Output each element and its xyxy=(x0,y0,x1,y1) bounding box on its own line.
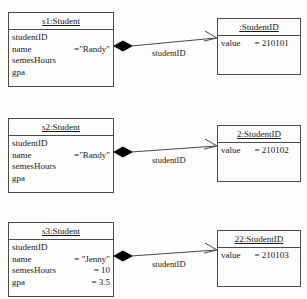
attribute-name: name xyxy=(12,44,32,56)
attribute-name: name xyxy=(12,150,32,162)
attribute-name: gpa xyxy=(12,277,25,289)
attribute-name: value xyxy=(221,250,241,262)
attribute-row: studentID xyxy=(9,138,113,150)
attribute-row: semesHours xyxy=(9,161,113,173)
object-box-student-3[interactable]: s3:Student studentID name = "Jenny" seme… xyxy=(8,222,114,297)
attribute-value xyxy=(104,138,110,150)
object-box-studentid-2[interactable]: 2:StudentID value = 210102 xyxy=(217,125,301,182)
attribute-value xyxy=(104,32,110,44)
attribute-value xyxy=(104,173,110,185)
attribute-row: value = 210102 xyxy=(218,145,300,157)
object-title-student-1: s1:Student xyxy=(9,13,113,30)
attribute-value xyxy=(104,161,110,173)
link-label-3: studentID xyxy=(152,259,186,269)
object-box-studentid-3[interactable]: 22:StudentID value = 210103 xyxy=(217,230,301,287)
attribute-value: = 3.5 xyxy=(85,277,110,289)
filled-diamond-icon-1 xyxy=(114,41,132,51)
attribute-value: = 210103 xyxy=(249,250,289,262)
attribute-name: value xyxy=(221,145,241,157)
object-attributes-student-1: studentID name ="Randy" semesHours gpa xyxy=(9,30,113,86)
open-arrowhead-icon-2 xyxy=(204,139,217,149)
attribute-value xyxy=(104,55,110,67)
object-title-student-2: s2:Student xyxy=(9,119,113,136)
attribute-name: name xyxy=(12,254,32,266)
attribute-row: value = 210103 xyxy=(218,250,300,262)
attribute-value xyxy=(104,242,110,254)
open-arrowhead-icon-1 xyxy=(204,31,217,41)
attribute-name: gpa xyxy=(12,67,25,79)
filled-diamond-icon-3 xyxy=(114,251,132,261)
uml-object-diagram: s1:Student studentID name ="Randy" semes… xyxy=(0,0,307,299)
object-title-studentid-2: 2:StudentID xyxy=(218,126,300,143)
object-title-student-3: s3:Student xyxy=(9,223,113,240)
attribute-value: ="Randy" xyxy=(68,44,110,56)
attribute-value: = 210101 xyxy=(249,38,289,50)
attribute-name: semesHours xyxy=(12,161,56,173)
attribute-name: gpa xyxy=(12,173,25,185)
attribute-value: = 210102 xyxy=(249,145,289,157)
attribute-name: value xyxy=(221,38,241,50)
object-attributes-studentid-1: value = 210101 xyxy=(218,36,300,74)
object-attributes-studentid-3: value = 210103 xyxy=(218,248,300,286)
open-arrowhead-icon-3 xyxy=(204,243,217,253)
attribute-value: = "Jenny" xyxy=(68,254,110,266)
attribute-name: semesHours xyxy=(12,55,56,67)
attribute-value: = 10 xyxy=(88,265,110,277)
attribute-row: name ="Randy" xyxy=(9,150,113,162)
attribute-value xyxy=(104,67,110,79)
link-label-1: studentID xyxy=(152,48,186,58)
object-box-student-2[interactable]: s2:Student studentID name ="Randy" semes… xyxy=(8,118,114,193)
object-box-student-1[interactable]: s1:Student studentID name ="Randy" semes… xyxy=(8,12,114,87)
attribute-row: semesHours = 10 xyxy=(9,265,113,277)
object-title-studentid-1: :StudentID xyxy=(218,19,300,36)
object-attributes-student-2: studentID name ="Randy" semesHours gpa xyxy=(9,136,113,192)
attribute-row: gpa = 3.5 xyxy=(9,277,113,289)
filled-diamond-icon-2 xyxy=(114,147,132,157)
attribute-row: gpa xyxy=(9,173,113,185)
attribute-row: gpa xyxy=(9,67,113,79)
attribute-name: semesHours xyxy=(12,265,56,277)
object-attributes-student-3: studentID name = "Jenny" semesHours = 10… xyxy=(9,240,113,296)
attribute-name: studentID xyxy=(12,32,48,44)
attribute-name: studentID xyxy=(12,242,48,254)
attribute-row: name = "Jenny" xyxy=(9,254,113,266)
attribute-value: ="Randy" xyxy=(68,150,110,162)
object-attributes-studentid-2: value = 210102 xyxy=(218,143,300,181)
attribute-row: name ="Randy" xyxy=(9,44,113,56)
attribute-row: value = 210101 xyxy=(218,38,300,50)
link-label-2: studentID xyxy=(152,155,186,165)
attribute-row: semesHours xyxy=(9,55,113,67)
attribute-row: studentID xyxy=(9,242,113,254)
object-box-studentid-1[interactable]: :StudentID value = 210101 xyxy=(217,18,301,75)
attribute-row: studentID xyxy=(9,32,113,44)
object-title-studentid-3: 22:StudentID xyxy=(218,231,300,248)
attribute-name: studentID xyxy=(12,138,48,150)
